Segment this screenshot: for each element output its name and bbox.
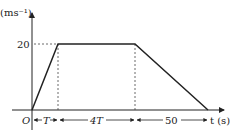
interval-4t-label: 4T xyxy=(89,115,104,126)
interval-t-label: T xyxy=(43,115,51,126)
velocity-time-graph: (ms⁻¹) 20 O T 4T 50 t (s) xyxy=(0,0,236,134)
y-tick-20: 20 xyxy=(17,39,30,50)
x-axis-label: t (s) xyxy=(210,115,230,126)
interval-50-label: 50 xyxy=(165,115,178,126)
y-axis-label: (ms⁻¹) xyxy=(0,7,32,18)
origin-label: O xyxy=(22,115,30,126)
velocity-curve xyxy=(32,44,208,110)
